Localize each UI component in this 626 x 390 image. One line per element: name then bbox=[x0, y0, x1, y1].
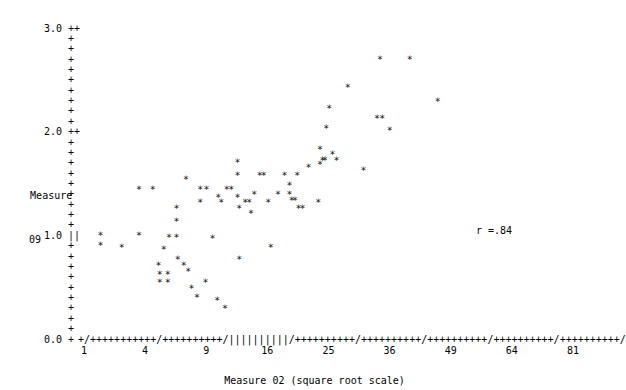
x-axis-tick-labels: 149162536496481 bbox=[0, 345, 585, 359]
correlation-annotation: r =.84 bbox=[476, 225, 512, 236]
data-point bbox=[160, 243, 167, 252]
x-axis-tick-label: 1 bbox=[81, 345, 87, 357]
data-point bbox=[173, 231, 180, 240]
data-point bbox=[376, 53, 383, 62]
data-point bbox=[135, 183, 142, 192]
data-point bbox=[333, 154, 340, 163]
data-point bbox=[217, 196, 224, 205]
data-point bbox=[406, 53, 413, 62]
data-point bbox=[203, 183, 210, 192]
x-axis-title: Measure 02 (square root scale) bbox=[0, 364, 585, 390]
data-point bbox=[173, 202, 180, 211]
data-point bbox=[234, 156, 241, 165]
data-point bbox=[173, 215, 180, 224]
data-point bbox=[180, 259, 187, 268]
data-point bbox=[286, 179, 293, 188]
x-axis-line: +/+++++++++++/++++++++++/||||||||||/++++… bbox=[78, 334, 626, 345]
data-point bbox=[202, 276, 209, 285]
data-point bbox=[323, 122, 330, 131]
x-axis-tick-label: 49 bbox=[445, 345, 457, 357]
x-axis-tick-label: 9 bbox=[203, 345, 209, 357]
data-point bbox=[316, 143, 323, 152]
data-point bbox=[434, 95, 441, 104]
data-point bbox=[234, 169, 241, 178]
x-axis-title-text: Measure 02 (square root scale) bbox=[204, 375, 405, 386]
x-axis-tick-label: 64 bbox=[506, 345, 518, 357]
data-point bbox=[305, 161, 312, 170]
x-axis-tick-label: 4 bbox=[142, 345, 148, 357]
data-point bbox=[193, 291, 200, 300]
data-point bbox=[260, 169, 267, 178]
data-point bbox=[214, 294, 221, 303]
data-point bbox=[165, 231, 172, 240]
x-axis-tick-label: 25 bbox=[322, 345, 334, 357]
data-point bbox=[281, 169, 288, 178]
data-point bbox=[251, 188, 258, 197]
data-point bbox=[209, 232, 216, 241]
data-point bbox=[97, 229, 104, 238]
data-point bbox=[321, 154, 328, 163]
data-point bbox=[274, 188, 281, 197]
data-point bbox=[156, 276, 163, 285]
data-point bbox=[293, 169, 300, 178]
data-point bbox=[164, 276, 171, 285]
x-axis-tick-label: 16 bbox=[261, 345, 273, 357]
data-point bbox=[97, 239, 104, 248]
data-point bbox=[314, 196, 321, 205]
data-point bbox=[378, 112, 385, 121]
data-point bbox=[182, 173, 189, 182]
data-point bbox=[149, 183, 156, 192]
data-point bbox=[299, 202, 306, 211]
data-point bbox=[265, 196, 272, 205]
data-point bbox=[221, 302, 228, 311]
data-point bbox=[267, 241, 274, 250]
data-point bbox=[344, 81, 351, 90]
data-point bbox=[386, 124, 393, 133]
data-point bbox=[360, 164, 367, 173]
data-point bbox=[197, 196, 204, 205]
data-point bbox=[235, 253, 242, 262]
x-axis-tick-label: 36 bbox=[384, 345, 396, 357]
data-point bbox=[234, 191, 241, 200]
data-point bbox=[247, 207, 254, 216]
data-point bbox=[326, 102, 333, 111]
data-point bbox=[135, 229, 142, 238]
data-point bbox=[118, 241, 125, 250]
x-axis-tick-label: 81 bbox=[567, 345, 579, 357]
